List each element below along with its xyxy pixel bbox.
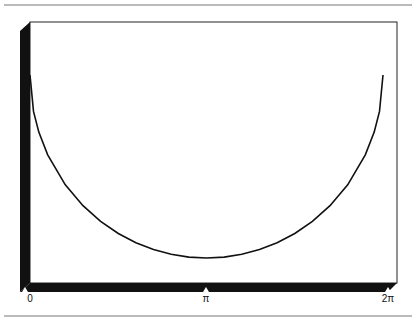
floor [20, 283, 397, 292]
left-wall [20, 22, 30, 292]
x-tick-label: 2π [382, 293, 395, 304]
x-tick-label: π [203, 293, 210, 304]
x-tick-label: 0 [27, 293, 33, 304]
chart: 0π2π [0, 0, 416, 321]
plot-back-wall [30, 22, 397, 283]
